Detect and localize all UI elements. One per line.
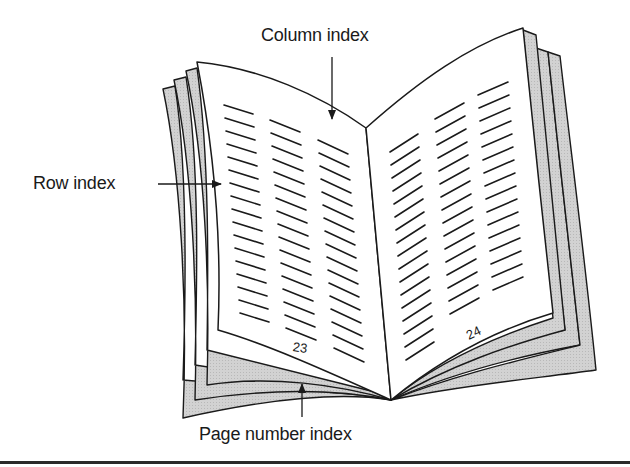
open-book-diagram: 23 24 Column index Row index Page number… <box>0 0 630 467</box>
left-page-number: 23 <box>292 339 308 356</box>
page-number-index-label: Page number index <box>199 424 352 445</box>
column-index-label: Column index <box>261 25 369 46</box>
bottom-rule <box>0 461 630 464</box>
row-index-label: Row index <box>33 173 115 194</box>
book-illustration: 23 24 <box>0 0 630 467</box>
